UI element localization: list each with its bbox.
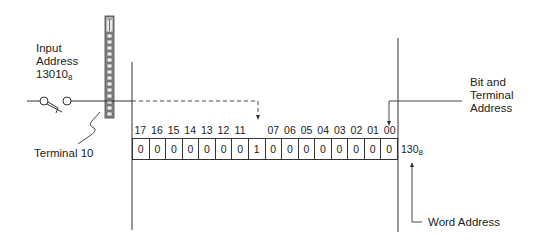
bit-number: 14 — [182, 123, 199, 137]
bit-number: 00 — [381, 123, 398, 137]
terminal-strip-icon — [105, 16, 114, 118]
bit-terminal-address-label: Bit and Terminal Address — [470, 76, 513, 115]
bit-cell: 0 — [347, 139, 364, 159]
word-address-value: 1308 — [401, 143, 423, 159]
bit-cell: 0 — [133, 139, 149, 159]
bit-number: 11 — [232, 123, 249, 137]
bit-cell: 0 — [331, 139, 348, 159]
bit-number: 01 — [365, 123, 382, 137]
word-bit-cells: 0 0 0 0 0 0 0 1 0 0 0 0 0 0 0 0 — [132, 138, 398, 160]
bit-cell: 0 — [149, 139, 166, 159]
bit-number: 05 — [298, 123, 315, 137]
bit-cell: 0 — [380, 139, 397, 159]
bit-number: 16 — [149, 123, 166, 137]
dashed-signal-path — [132, 101, 258, 116]
bit-number: 15 — [165, 123, 182, 137]
bit-cell: 0 — [364, 139, 381, 159]
word-address-arrow-icon — [410, 162, 414, 167]
word-address-leader — [412, 165, 422, 222]
bit-number: 07 — [265, 123, 282, 137]
signal-arrow-icon — [256, 115, 260, 120]
bit-number: 17 — [132, 123, 149, 137]
bit-cell: 0 — [281, 139, 298, 159]
bit-number: 13 — [199, 123, 216, 137]
bit-number: 12 — [215, 123, 232, 137]
bit-cell: 0 — [215, 139, 232, 159]
terminal-leader — [78, 112, 100, 144]
bit-terminal-leader — [389, 101, 462, 122]
bit-cell: 1 — [248, 139, 265, 159]
bit-cell: 0 — [198, 139, 215, 159]
bit-number-row: 17 16 15 14 13 12 11 07 06 05 04 03 02 0… — [132, 123, 398, 137]
bit-number: 02 — [348, 123, 365, 137]
bit-number: 03 — [332, 123, 349, 137]
bit-cell: 0 — [298, 139, 315, 159]
input-switch-icon — [27, 97, 132, 113]
bit-cell: 0 — [231, 139, 248, 159]
terminal-label: Terminal 10 — [34, 147, 93, 160]
word-address-label: Word Address — [428, 216, 500, 229]
bit-number: 06 — [282, 123, 299, 137]
bit-cell: 0 — [182, 139, 199, 159]
bit-cell: 0 — [314, 139, 331, 159]
bit-cell: 0 — [165, 139, 182, 159]
bit-cell: 0 — [265, 139, 282, 159]
input-address-label: Input Address 130108 — [36, 42, 78, 84]
bit-number: 04 — [315, 123, 332, 137]
bit-number-hidden — [248, 123, 265, 137]
